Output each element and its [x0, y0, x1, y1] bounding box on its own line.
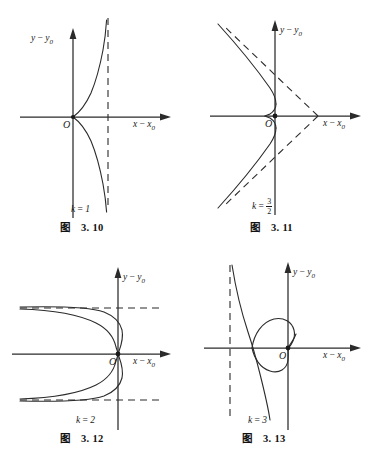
k-numerator: 3: [266, 198, 272, 208]
caption-number: 3. 10: [81, 222, 104, 233]
x-axis-arrowhead: [350, 345, 361, 352]
x-axis-arrowhead: [350, 113, 361, 120]
y-axis-label: y − y0: [280, 26, 302, 38]
y-axis-arrowhead: [115, 267, 122, 278]
parameter-label-k: k = 1: [71, 205, 90, 215]
y-axis-arrowhead: [272, 20, 279, 31]
curve-lower-branch: [73, 117, 107, 212]
curve-lower-branch: [218, 128, 276, 208]
origin-label: O: [109, 357, 116, 367]
origin-point: [71, 115, 75, 119]
parameter-label-k: k = 2: [76, 416, 95, 426]
origin-point: [273, 114, 278, 119]
x-axis-label: x − x0: [323, 119, 345, 131]
plot-3-12: [0, 240, 190, 465]
origin-label: O: [279, 351, 286, 361]
curve-lobe-join: [288, 334, 296, 348]
caption-word: 图: [60, 432, 70, 444]
k-value: 1: [85, 204, 90, 214]
caption-word: 图: [250, 221, 260, 233]
k-denominator: 2: [266, 207, 272, 216]
plot-3-10: [0, 0, 190, 240]
figure-caption: 图3. 12: [60, 433, 104, 445]
parameter-label-k: k = 32: [252, 198, 272, 216]
curve-lower-branch: [20, 354, 118, 399]
figure-caption: 图3. 10: [60, 222, 104, 234]
y-axis-label: y − y0: [123, 273, 145, 285]
caption-number: 3. 13: [263, 433, 286, 444]
x-axis-label: x − x0: [133, 120, 155, 132]
y-axis-arrowhead: [285, 262, 292, 273]
k-value: 3: [262, 415, 267, 425]
y-axis-label: y − y0: [31, 34, 53, 46]
figure-caption: 图3. 13: [242, 433, 286, 445]
oblique-asymptote-lower: [226, 116, 318, 204]
figure-panel-3-10: y − y0 x − x0 O k = 1 图3. 10: [0, 0, 190, 240]
oblique-asymptote-upper: [226, 28, 318, 116]
curve-upper-branch: [73, 20, 107, 117]
figure-panel-3-13: y − y0 x − x0 O k = 3 图3. 13: [190, 240, 380, 465]
y-axis-label: y − y0: [293, 268, 315, 280]
x-axis-label: x − x0: [133, 357, 155, 369]
figure-caption: 图3. 11: [250, 222, 293, 234]
y-axis-arrowhead: [70, 28, 77, 39]
parameter-label-k: k = 3: [248, 416, 267, 426]
figure-sheet: y − y0 x − x0 O k = 1 图3. 10: [0, 0, 380, 465]
origin-label: O: [63, 120, 70, 130]
curve-upper-branch: [218, 24, 276, 104]
x-axis-arrowhead: [160, 114, 171, 121]
caption-word: 图: [242, 432, 252, 444]
k-value: 2: [90, 415, 95, 425]
figure-panel-3-12: y − y0 x − x0 O k = 2 图3. 12: [0, 240, 190, 465]
curve-upper-branch: [20, 309, 118, 354]
k-fraction: 32: [266, 198, 272, 216]
origin-point: [116, 352, 121, 357]
x-axis-label: x − x0: [323, 351, 345, 363]
curve-outer-branch: [232, 265, 270, 420]
x-axis-arrowhead: [160, 351, 171, 358]
caption-number: 3. 12: [81, 433, 104, 444]
figure-panel-3-11: y − y0 x − x0 O k = 32 图3. 11: [190, 0, 380, 240]
caption-word: 图: [60, 221, 70, 233]
origin-point: [286, 346, 291, 351]
origin-label: O: [265, 119, 272, 129]
caption-number: 3. 11: [271, 222, 293, 233]
